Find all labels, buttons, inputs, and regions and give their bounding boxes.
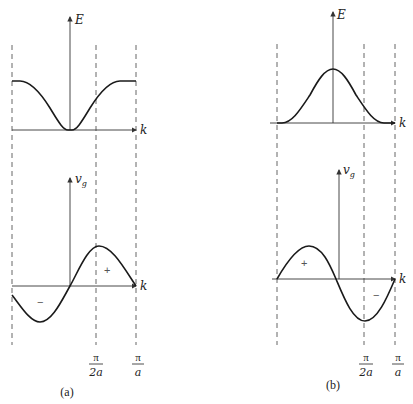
svg-text:a: a [395,366,402,379]
positive-region-label: + [301,257,307,269]
band-structure-diagram: E k vg k + − π 2a π a (a) [0,0,413,404]
zone-boundary-lines-a [12,45,136,345]
k-axis-label: k [140,279,147,293]
energy-curve [277,69,395,123]
svg-text:π: π [395,351,401,363]
tick-label-pi-over-a: π a [392,351,404,379]
k-axis-label: k [399,116,406,130]
caption-b: (b) [326,378,340,392]
negative-region-label: − [37,296,43,308]
svg-text:π: π [363,351,369,363]
e-axis-label: E [336,8,346,22]
tick-label-pi-over-2a: π 2a [358,351,373,379]
energy-curve [12,81,136,130]
group-velocity-curve [277,246,395,321]
tick-label-pi-over-2a: π 2a [88,351,103,379]
svg-text:2a: 2a [358,366,373,379]
e-axis-label: E [74,13,84,27]
svg-text:a: a [135,366,142,379]
positive-region-label: + [104,264,110,276]
tick-label-pi-over-a: π a [132,351,144,379]
panel-a: E k vg k + − π 2a π a (a) [12,13,147,399]
group-velocity-plot-b: vg k + − [272,163,406,321]
energy-plot-b: E k [270,8,406,130]
group-velocity-curve [12,246,136,322]
negative-region-label: − [373,289,379,301]
group-velocity-plot-a: vg k + − [12,172,147,322]
vg-axis-label: vg [343,163,355,179]
caption-a: (a) [60,385,73,399]
k-axis-label: k [399,272,406,286]
svg-text:π: π [135,351,141,363]
vg-axis-label: vg [75,172,87,188]
svg-text:2a: 2a [88,366,103,379]
panel-b: E k vg k + − π 2a π a (b) [270,8,406,392]
svg-text:π: π [93,351,99,363]
k-axis-label: k [140,123,147,137]
energy-plot-a: E k [12,13,147,137]
